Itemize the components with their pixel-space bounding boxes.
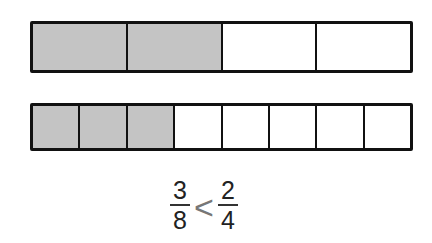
less-than-symbol: < — [194, 188, 214, 227]
bar-segment-empty — [317, 24, 410, 70]
fraction-bar-fourths — [30, 21, 413, 73]
fraction-comparison: 3 8 < 2 4 — [170, 178, 238, 232]
bar-segment-empty — [223, 106, 270, 148]
bar-segment-shaded — [80, 106, 127, 148]
numerator: 3 — [173, 178, 187, 202]
numerator: 2 — [221, 178, 235, 202]
bar-segment-empty — [175, 106, 222, 148]
fraction-left: 3 8 — [170, 178, 190, 232]
bar-segment-shaded — [128, 106, 175, 148]
bar-segment-shaded — [33, 24, 128, 70]
bar-segment-empty — [317, 106, 364, 148]
bar-segment-shaded — [33, 106, 80, 148]
bar-segment-empty — [223, 24, 318, 70]
bar-segment-shaded — [128, 24, 223, 70]
bar-segment-empty — [270, 106, 317, 148]
denominator: 4 — [221, 208, 235, 232]
bar-segment-empty — [365, 106, 410, 148]
fraction-right: 2 4 — [218, 178, 238, 232]
fraction-bar-eighths — [30, 103, 413, 151]
denominator: 8 — [173, 208, 187, 232]
